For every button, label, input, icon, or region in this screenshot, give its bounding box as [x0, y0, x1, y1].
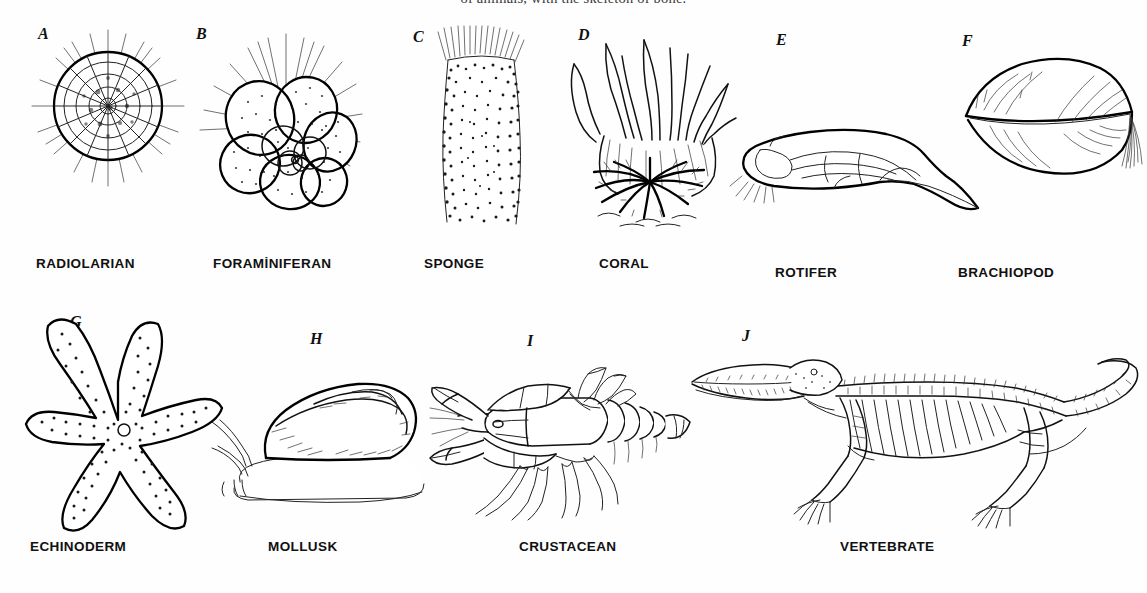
specimen-label-sponge: SPONGE: [424, 256, 484, 271]
specimen-label-vertebrate: VERTEBRATE: [840, 539, 935, 554]
caption-text: of animals, with the skeleton of bone.: [461, 0, 687, 5]
specimen-label-coral: CORAL: [599, 256, 649, 271]
foraminiferan-drawing: [190, 30, 365, 220]
specimen-label-mollusk: MOLLUSK: [268, 539, 338, 554]
specimen-label-rotifer: ROTIFER: [775, 265, 837, 280]
sponge-drawing: [430, 26, 535, 231]
brachiopod-drawing: [960, 50, 1145, 195]
panel-letter-e: E: [776, 31, 787, 49]
coral-drawing: [560, 30, 740, 230]
crustacean-drawing: [428, 362, 693, 522]
panel-letter-c: C: [413, 28, 424, 46]
rotifer-drawing: [730, 110, 995, 225]
vertebrate-drawing: [678, 338, 1143, 528]
specimen-label-crustacean: CRUSTACEAN: [519, 539, 617, 554]
specimen-label-foraminiferan: FORAMİNIFERAN: [213, 256, 331, 271]
panel-letter-f: F: [962, 32, 973, 50]
panel-letter-h: H: [310, 330, 322, 348]
specimen-label-echinoderm: ECHINODERM: [30, 539, 126, 554]
figure-caption-top: of animals, with the skeleton of bone.: [0, 0, 1147, 5]
echinoderm-drawing: [18, 312, 233, 537]
specimen-label-brachiopod: BRACHIOPOD: [958, 265, 1054, 280]
radiolarian-drawing: [28, 28, 188, 193]
figure-plate: of animals, with the skeleton of bone. A: [0, 0, 1147, 593]
mollusk-drawing: [210, 378, 435, 518]
specimen-label-radiolarian: RADIOLARIAN: [36, 256, 135, 271]
panel-letter-i: I: [527, 332, 533, 350]
